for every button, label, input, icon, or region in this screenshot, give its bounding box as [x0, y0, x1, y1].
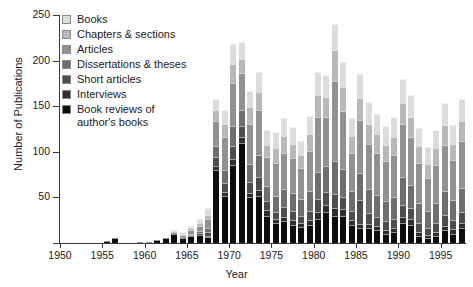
bar-segment [188, 226, 194, 229]
bar-segment [450, 229, 456, 234]
bar-column [281, 118, 287, 243]
bar-column [383, 126, 389, 243]
bar-column [180, 232, 186, 243]
bar-segment [323, 192, 329, 205]
x-axis-title: Year [0, 268, 473, 280]
bar-segment [298, 199, 304, 215]
bar-column [256, 72, 262, 243]
bar-segment [340, 169, 346, 196]
publications-bar-chart: Number of Publications Year 501001502002… [0, 0, 473, 287]
bar-segment [315, 72, 321, 96]
bar-segment [281, 217, 287, 222]
bar-column [112, 238, 118, 243]
y-tick-mark [53, 61, 59, 62]
bar-segment [239, 143, 245, 243]
bar-segment [213, 157, 219, 166]
bar-segment [340, 62, 346, 88]
bar-segment [425, 164, 431, 179]
bar-segment [188, 235, 194, 236]
bar-segment [349, 136, 355, 152]
bar-segment [340, 197, 346, 210]
legend-swatch-icon [62, 45, 71, 54]
bar-segment [180, 232, 186, 234]
bar-segment [391, 197, 397, 219]
bar-segment [391, 137, 397, 155]
bar-segment [298, 155, 304, 168]
bar-segment [171, 234, 177, 243]
bar-segment [416, 203, 422, 223]
bar-segment [425, 147, 431, 163]
bar-segment [180, 234, 186, 235]
bar-segment [433, 236, 439, 243]
bar-segment [408, 225, 414, 243]
bar-segment [197, 231, 203, 233]
bar-segment [374, 195, 380, 217]
bar-segment [366, 224, 372, 229]
bar-segment [290, 225, 296, 243]
legend-item: Dissertations & theses [62, 58, 242, 71]
bar-column [459, 99, 465, 243]
bar-segment [256, 196, 262, 243]
bar-segment [459, 121, 465, 141]
bar-segment [450, 234, 456, 243]
y-tick-label: 50 [18, 190, 50, 202]
x-tick-mark [229, 244, 230, 248]
bar-segment [425, 238, 431, 243]
bar-segment [281, 221, 287, 243]
bar-segment [400, 177, 406, 204]
bar-column [340, 62, 346, 243]
bar-segment [290, 220, 296, 225]
bar-segment [307, 116, 313, 134]
bar-column [442, 103, 448, 243]
bar-column [197, 219, 203, 243]
bar-segment [340, 216, 346, 243]
bar-segment [442, 191, 448, 215]
bar-column [425, 147, 431, 243]
bar-segment [416, 236, 422, 243]
bar-segment [315, 212, 321, 219]
bar-segment [332, 161, 338, 194]
bar-segment [222, 170, 228, 183]
bar-segment [171, 231, 177, 232]
bar-segment [307, 211, 313, 220]
bar-segment [213, 146, 219, 157]
bar-segment [433, 203, 439, 223]
y-tick-mark [53, 15, 59, 16]
bar-segment [264, 130, 270, 145]
bar-segment [391, 232, 397, 243]
bar-segment [425, 211, 431, 227]
bar-column [247, 91, 253, 243]
bar-column [332, 24, 338, 243]
legend-swatch-icon [62, 105, 71, 114]
bar-segment [366, 144, 372, 190]
bar-segment [408, 117, 414, 137]
bar-column [323, 75, 329, 243]
bar-segment [374, 114, 380, 134]
legend-item: Articles [62, 43, 242, 56]
bar-segment [247, 182, 253, 193]
bar-segment [273, 219, 279, 223]
bar-segment [383, 234, 389, 243]
bar-segment [366, 189, 372, 213]
bar-segment [349, 118, 355, 136]
bar-segment [307, 191, 313, 211]
bar-segment [264, 201, 270, 210]
bar-segment [315, 199, 321, 212]
bar-column [137, 242, 143, 243]
y-tick-label: 200 [18, 54, 50, 66]
legend-label: Articles [77, 43, 113, 56]
legend-swatch-icon [62, 75, 71, 84]
bar-segment [442, 230, 448, 243]
bar-segment [400, 217, 406, 222]
x-tick-mark [356, 244, 357, 248]
legend-swatch-icon [62, 90, 71, 99]
bar-segment [256, 72, 262, 92]
bar-segment [459, 99, 465, 121]
bar-segment [247, 193, 253, 198]
bar-segment [433, 232, 439, 236]
bar-segment [315, 95, 321, 117]
bar-segment [112, 238, 118, 243]
legend-item: Short articles [62, 73, 242, 86]
bar-segment [442, 145, 448, 191]
bar-segment [332, 208, 338, 215]
